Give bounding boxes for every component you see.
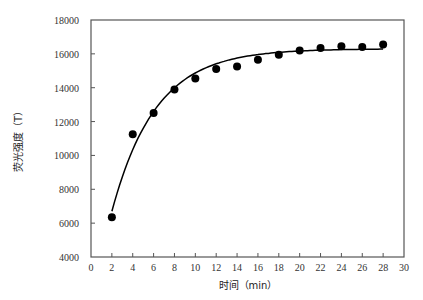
y-axis: 4000600080001000012000140001600018000 — [54, 15, 95, 263]
chart: 024681012141618202224262830 400060008000… — [0, 0, 423, 300]
x-tick-label: 4 — [130, 262, 135, 273]
data-point — [275, 51, 283, 59]
y-tick-label: 16000 — [54, 49, 79, 60]
y-tick-label: 4000 — [59, 252, 79, 263]
x-tick-label: 16 — [253, 262, 263, 273]
data-point — [150, 109, 158, 117]
data-point — [170, 85, 178, 93]
y-tick-label: 14000 — [54, 83, 79, 94]
data-point — [358, 43, 366, 51]
data-point — [212, 65, 220, 73]
data-point — [296, 46, 304, 54]
x-tick-label: 6 — [151, 262, 156, 273]
x-tick-label: 12 — [211, 262, 221, 273]
data-points — [108, 41, 387, 222]
data-point — [129, 130, 137, 138]
data-point — [191, 74, 199, 82]
data-point — [337, 42, 345, 50]
y-tick-label: 18000 — [54, 15, 79, 26]
data-point — [233, 63, 241, 71]
x-tick-label: 22 — [316, 262, 326, 273]
x-tick-label: 26 — [357, 262, 367, 273]
data-point — [379, 41, 387, 49]
data-point — [317, 44, 325, 52]
fit-curve — [112, 49, 383, 211]
x-tick-label: 18 — [274, 262, 284, 273]
y-tick-label: 8000 — [59, 184, 79, 195]
y-axis-title: 荧光强度（T） — [12, 106, 24, 172]
y-tick-label: 12000 — [54, 117, 79, 128]
x-tick-label: 8 — [172, 262, 177, 273]
x-tick-label: 10 — [190, 262, 200, 273]
x-axis: 024681012141618202224262830 — [89, 253, 410, 273]
x-tick-label: 24 — [336, 262, 346, 273]
x-tick-label: 0 — [89, 262, 94, 273]
x-tick-label: 2 — [109, 262, 114, 273]
x-tick-label: 14 — [232, 262, 242, 273]
x-tick-label: 30 — [399, 262, 409, 273]
x-tick-label: 20 — [295, 262, 305, 273]
y-tick-label: 10000 — [54, 150, 79, 161]
x-axis-title: 时间（min） — [219, 279, 278, 291]
y-tick-label: 6000 — [59, 218, 79, 229]
data-point — [108, 213, 116, 221]
data-point — [254, 56, 262, 64]
x-tick-label: 28 — [378, 262, 388, 273]
